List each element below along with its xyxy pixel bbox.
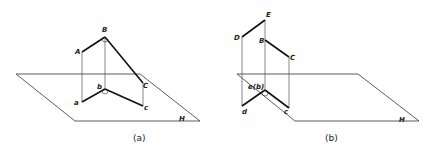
label-A: A — [74, 48, 80, 56]
segment-de — [242, 90, 265, 106]
label-e-b: e(b) — [248, 83, 264, 91]
label-C-b: C — [290, 54, 296, 62]
right-angle-mark-b — [102, 91, 108, 94]
label-a: a — [74, 99, 79, 107]
figure-a: A B C a b c H (a) — [16, 26, 200, 143]
segment-DE — [242, 20, 265, 37]
h-plane-b — [237, 74, 419, 121]
label-c: c — [144, 104, 149, 112]
label-H-b: H — [399, 116, 405, 124]
label-c-b: c — [284, 108, 289, 116]
segment-bc-b — [265, 90, 289, 108]
label-d: d — [242, 108, 248, 116]
diagram-canvas: A B C a b c H (a) D E B C d e(b) c H (b) — [0, 0, 430, 149]
label-D: D — [234, 34, 240, 42]
segment-BC-b — [265, 40, 289, 57]
caption-a: (a) — [133, 133, 146, 143]
label-H-a: H — [179, 115, 185, 123]
segment-AB — [82, 37, 105, 52]
label-E: E — [266, 11, 271, 19]
caption-b: (b) — [325, 133, 338, 143]
label-B: B — [102, 26, 107, 34]
segment-BC — [105, 37, 143, 83]
figure-b: D E B C d e(b) c H (b) — [234, 11, 419, 143]
label-C: C — [143, 82, 149, 90]
label-b: b — [97, 83, 102, 91]
segment-bc — [105, 89, 143, 106]
h-plane-a — [16, 74, 200, 121]
projection-figure: A B C a b c H (a) D E B C d e(b) c H (b) — [0, 0, 430, 149]
label-B-b: B — [259, 37, 264, 45]
